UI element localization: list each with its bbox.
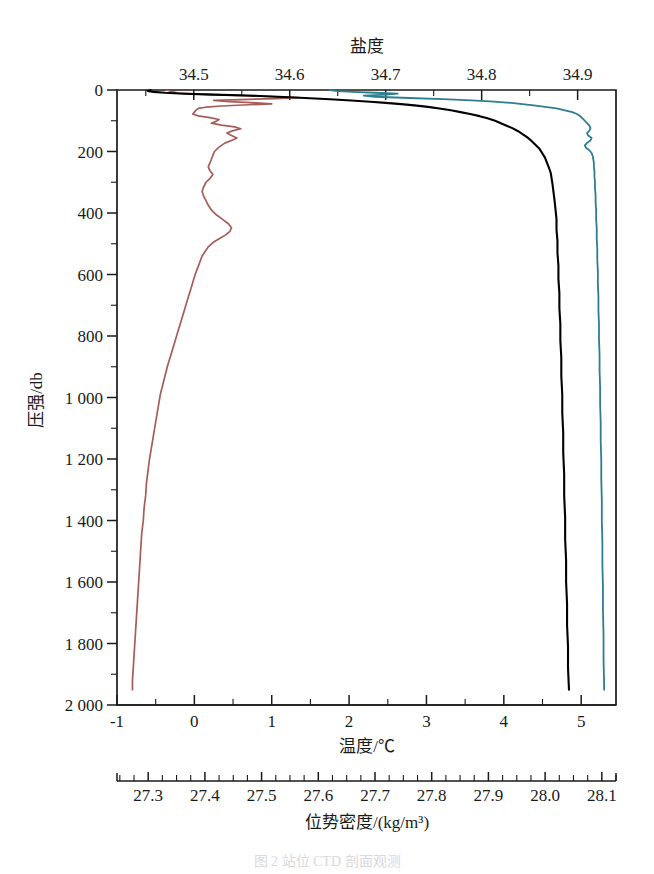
salinity-tick-label: 34.5 — [179, 65, 209, 84]
salinity-tick-label: 34.6 — [275, 65, 305, 84]
density-axis-label: 位势密度/(kg/m³) — [305, 813, 429, 832]
figure-caption: 图 2 站位 CTD 剖面观测 — [254, 854, 401, 869]
density-axis: 27.327.427.527.627.727.827.928.028.1 — [117, 772, 617, 805]
density-tick-label: 27.4 — [190, 786, 220, 805]
pressure-tick-label: 0 — [95, 81, 104, 100]
pressure-tick-label: 200 — [78, 143, 104, 162]
figure-container: 34.534.634.734.834.9 02004006008001 0001… — [0, 0, 654, 874]
temperature-tick-label: 4 — [500, 712, 509, 731]
pressure-tick-label: 1 200 — [65, 450, 103, 469]
salinity-axis-label: 盐度 — [350, 37, 384, 56]
profile-chart: 34.534.634.734.834.9 02004006008001 0001… — [0, 0, 654, 874]
pressure-tick-label: 800 — [78, 327, 104, 346]
density-tick-label: 27.6 — [303, 786, 333, 805]
pressure-tick-label: 2 000 — [65, 696, 103, 715]
pressure-tick-label: 1 600 — [65, 573, 103, 592]
temperature-axis: -1012345 — [110, 695, 616, 731]
density-tick-label: 27.9 — [474, 786, 504, 805]
temperature-tick-label: 5 — [577, 712, 586, 731]
density-tick-label: 28.0 — [530, 786, 560, 805]
temperature-tick-label: -1 — [110, 712, 124, 731]
density-tick-label: 27.7 — [360, 786, 390, 805]
density-tick-label: 27.8 — [417, 786, 447, 805]
density-tick-label: 28.1 — [587, 786, 617, 805]
salinity-tick-label: 34.7 — [371, 65, 401, 84]
profile-curves — [132, 90, 604, 690]
curve-salinity — [148, 90, 569, 690]
density-tick-label: 27.5 — [247, 786, 277, 805]
temperature-tick-label: 1 — [267, 712, 276, 731]
pressure-tick-label: 1 400 — [65, 512, 103, 531]
pressure-axis: 02004006008001 0001 2001 4001 6001 8002 … — [65, 81, 117, 715]
plot-frame — [117, 90, 616, 705]
curve-temperature — [132, 90, 298, 690]
temperature-tick-label: 3 — [422, 712, 431, 731]
pressure-tick-label: 400 — [78, 204, 104, 223]
pressure-axis-label: 压强/db — [27, 372, 46, 428]
temperature-tick-label: 0 — [190, 712, 199, 731]
salinity-tick-label: 34.8 — [467, 65, 497, 84]
pressure-tick-label: 600 — [78, 266, 104, 285]
density-tick-label: 27.3 — [133, 786, 163, 805]
pressure-tick-label: 1 000 — [65, 389, 103, 408]
pressure-tick-label: 1 800 — [65, 635, 103, 654]
temperature-axis-label: 温度/℃ — [339, 737, 395, 756]
salinity-tick-label: 34.9 — [563, 65, 593, 84]
temperature-tick-label: 2 — [345, 712, 354, 731]
